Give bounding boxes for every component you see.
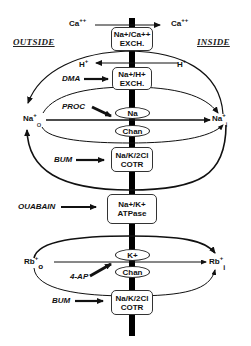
na-k-2cl-cotransporter-box-2: Na/K/2Cl COTR: [111, 290, 153, 315]
proc-arrow: [92, 107, 111, 116]
na-outside-label: Na+o: [23, 115, 41, 123]
proc-label: PROC: [62, 103, 85, 111]
na-ca-exchanger-label: Na+/Ca++: [114, 30, 151, 39]
k-channel-top-oval: K+: [115, 249, 150, 261]
na-k-atpase-sublabel: ATPase: [118, 209, 147, 218]
cotransporter-2-label: Na/K/2Cl: [116, 294, 149, 303]
cotransporter-2-sublabel: COTR: [121, 303, 144, 312]
cotransporter-1-sublabel: COTR: [121, 160, 144, 169]
ap4-arrow: [90, 264, 111, 276]
na-h-exchanger-sublabel: EXCH.: [120, 79, 144, 88]
inside-label: INSIDE: [197, 37, 230, 47]
na-channel-bottom-oval: Chan: [115, 125, 150, 137]
na-channel-top-oval: Na: [115, 107, 150, 119]
na-k-atpase-box: Na+/K+ ATPase: [107, 194, 157, 224]
na-h-exchanger-label: Na+/H+: [118, 70, 146, 79]
na-k-atpase-label: Na+/K+: [118, 200, 146, 209]
bum-label-2: BUM: [52, 297, 70, 305]
bum-label-1: BUM: [54, 156, 72, 164]
k-channel-bottom-oval: Chan: [115, 266, 150, 278]
rb-inside-label: Rb+i: [209, 258, 225, 266]
h-outside-label: H+: [79, 61, 88, 69]
rb-outside-label: Rb+o: [24, 258, 43, 266]
h-inside-label: H+: [177, 61, 186, 69]
na-inside-label: Na+i: [212, 115, 227, 123]
na-h-exchanger-box: Na+/H+ EXCH.: [112, 67, 152, 90]
ouabain-label: OUABAIN: [18, 203, 55, 211]
4-ap-label: 4-AP: [70, 273, 88, 281]
ca-outside-label: Ca++: [69, 20, 86, 28]
ion-transport-diagram: OUTSIDE INSIDE Ca++ Ca++ H+ H+ Na+o Na+i…: [0, 0, 251, 346]
ca-inside-label: Ca++: [171, 20, 188, 28]
outside-label: OUTSIDE: [13, 37, 55, 47]
membrane-bar: [129, 18, 135, 336]
na-ca-exchanger-sublabel: EXCH.: [120, 39, 144, 48]
na-ca-exchanger-box: Na+/Ca++ EXCH.: [111, 27, 153, 51]
dma-label: DMA: [62, 75, 80, 83]
na-k-2cl-cotransporter-box-1: Na/K/2Cl COTR: [111, 147, 153, 172]
cotransporter-1-label: Na/K/2Cl: [116, 151, 149, 160]
